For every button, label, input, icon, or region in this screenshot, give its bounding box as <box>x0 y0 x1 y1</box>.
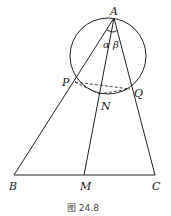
label-q: Q <box>134 87 143 100</box>
label-m: M <box>79 180 92 193</box>
label-alpha: α <box>103 39 110 50</box>
geometry-figure: A P Q N B M C α β 图 24.8 <box>0 0 171 216</box>
label-c: C <box>152 180 161 193</box>
label-n: N <box>100 100 111 113</box>
label-a: A <box>109 5 118 18</box>
label-b: B <box>8 180 17 193</box>
figure-caption: 图 24.8 <box>67 203 99 213</box>
segment-pq <box>75 82 130 89</box>
label-p: P <box>61 76 70 89</box>
label-beta: β <box>112 39 119 50</box>
